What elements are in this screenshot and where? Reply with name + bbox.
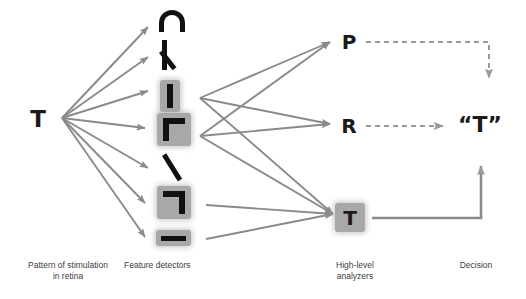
caption-high-level-analyzers: High-level analyzers — [318, 260, 392, 283]
input-stimulus-symbol: T — [26, 106, 50, 132]
caption-input: Pattern of stimulation in retina — [8, 260, 128, 283]
caption-feature-detectors: Feature detectors — [124, 260, 234, 271]
caption-decision: Decision — [440, 260, 512, 271]
retina-to-detector-arrows — [62, 27, 148, 237]
analyzer-p: P — [338, 31, 360, 53]
angled-lambda-glyph — [160, 40, 184, 70]
analyzer-t-label: T — [335, 203, 365, 232]
vertical-bar-glyph — [160, 80, 184, 112]
corner-upper-left-glyph — [157, 113, 197, 151]
connector-layer — [0, 0, 526, 299]
corner-upper-right-glyph — [157, 186, 197, 224]
analyzer-t: T — [335, 203, 367, 233]
analyzer-r: R — [338, 115, 360, 137]
t-analyzer-to-decision-path — [372, 166, 481, 218]
arc-opening-down-glyph — [159, 10, 185, 34]
decision-output: “T” — [452, 112, 508, 138]
diagonal-stroke-glyph — [160, 156, 186, 184]
detector-to-analyzer-arrows — [200, 42, 333, 239]
horizontal-bar-glyph — [156, 230, 196, 250]
pattern-recognition-diagram: T P R T “T” Pattern — [0, 0, 526, 299]
